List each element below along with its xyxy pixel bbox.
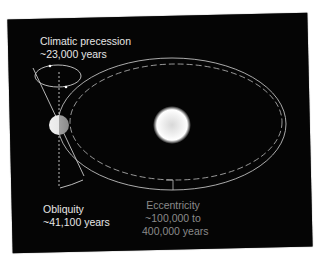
eccentricity-label: Eccentricity ~100,000 to 400,000 years <box>142 199 204 238</box>
precession-circle <box>35 65 81 89</box>
eccentricity-marker <box>166 180 173 190</box>
precession-label-period: ~23,000 years <box>40 48 131 61</box>
precession-label: Climatic precession ~23,000 years <box>40 35 131 61</box>
obliquity-label-period: ~41,100 years <box>43 216 110 229</box>
eccentricity-label-period-1: ~100,000 to <box>142 212 204 225</box>
precession-label-title: Climatic precession <box>40 35 131 48</box>
eccentricity-label-title: Eccentricity <box>142 199 204 212</box>
sun-icon <box>153 106 191 144</box>
obliquity-label-title: Obliquity <box>43 203 110 216</box>
obliquity-label: Obliquity ~41,100 years <box>43 203 110 229</box>
eccentricity-label-period-2: 400,000 years <box>142 225 204 238</box>
obliquity-angle-marker <box>60 180 83 188</box>
earth-icon <box>49 115 69 135</box>
